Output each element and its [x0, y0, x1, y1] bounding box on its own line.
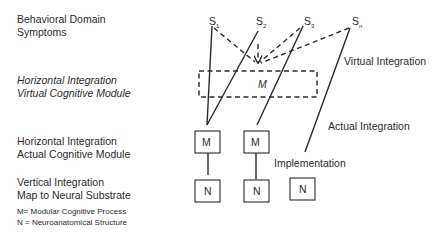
actual-integration-annotation: Actual Integration — [328, 120, 410, 132]
svg-text:N: N — [204, 185, 212, 197]
neural-box-2: N — [244, 180, 269, 202]
implementation-annotation: Implementation — [274, 157, 346, 169]
module-box-2: M — [244, 131, 269, 153]
svg-text:N: N — [299, 183, 307, 195]
virtual-module-label: M — [258, 78, 267, 90]
virtual-integration-lines — [214, 28, 349, 63]
svg-text:N: N — [253, 185, 261, 197]
svg-text:3: 3 — [311, 23, 315, 29]
module-box-1: M — [195, 131, 220, 153]
svg-text:S: S — [352, 15, 359, 27]
symptom-s2: S 2 — [256, 15, 267, 29]
svg-text:M: M — [251, 136, 260, 148]
neural-box-3: N — [290, 178, 315, 200]
svg-text:2: 2 — [263, 23, 267, 29]
actual-integration-lines — [207, 26, 350, 152]
symptom-s3: S 3 — [304, 15, 315, 29]
svg-text:1: 1 — [216, 23, 220, 29]
virtual-integration-annotation: Virtual Integration — [344, 55, 426, 67]
svg-text:M: M — [202, 136, 211, 148]
svg-text:n: n — [359, 23, 362, 29]
symptom-sn: S n — [352, 15, 362, 29]
svg-text:S: S — [304, 15, 311, 27]
svg-text:S: S — [256, 15, 263, 27]
integration-diagram: S 1 S 2 S 3 S n M M M — [0, 0, 442, 236]
symptom-s1: S 1 — [209, 15, 220, 29]
vertical-connectors — [208, 153, 256, 179]
svg-text:S: S — [209, 15, 216, 27]
neural-box-1: N — [195, 180, 220, 202]
